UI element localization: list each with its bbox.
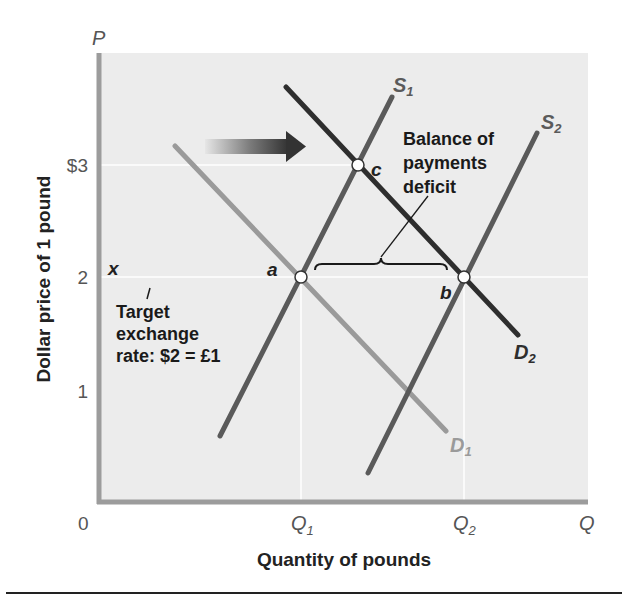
x-tick-origin: 0	[78, 513, 89, 534]
chart-figure: a b c x S1 S2 D2 D1 Balance of payments …	[0, 0, 625, 603]
point-c-marker	[352, 159, 364, 171]
point-b-marker	[458, 271, 470, 283]
x-tick-q1: Q1	[291, 512, 314, 538]
x-axis-variable: Q	[579, 512, 595, 534]
svg-text:payments: payments	[403, 153, 487, 173]
svg-text:Target: Target	[116, 302, 170, 322]
y-tick-2: 2	[77, 267, 88, 288]
y-axis-title: Dollar price of 1 pound	[33, 176, 54, 383]
point-a-marker	[295, 271, 307, 283]
svg-text:exchange: exchange	[116, 324, 199, 344]
point-c-label: c	[371, 159, 382, 180]
y-tick-3: $3	[67, 155, 88, 176]
point-b-label: b	[440, 282, 452, 303]
svg-text:rate: $2 = £1: rate: $2 = £1	[116, 346, 221, 366]
x-axis-title: Quantity of pounds	[257, 549, 431, 570]
plot-area	[97, 53, 588, 503]
point-a-label: a	[267, 259, 278, 280]
x-tick-q2: Q2	[453, 512, 477, 538]
svg-text:Balance of: Balance of	[403, 129, 495, 149]
y-tick-1: 1	[77, 381, 88, 402]
point-x-label: x	[107, 258, 120, 279]
y-axis-variable: P	[92, 27, 106, 49]
svg-text:deficit: deficit	[403, 177, 456, 197]
